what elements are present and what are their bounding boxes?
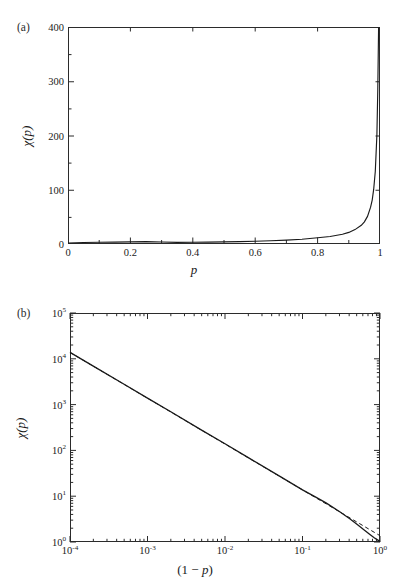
- panel-b-curve-solid: [70, 352, 380, 541]
- panel-b-canvas: [0, 0, 409, 585]
